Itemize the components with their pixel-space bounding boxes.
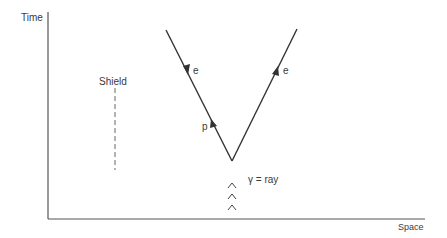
positron-label: p (202, 122, 208, 132)
arrow-up-icon (210, 119, 217, 128)
electron-label-right: e (283, 66, 289, 76)
caret-icon (228, 194, 236, 199)
space-axis-label: Space (398, 223, 424, 232)
spacetime-diagram: Time Space Shield e e p γ = ray (0, 0, 447, 238)
time-axis-label: Time (21, 13, 43, 23)
caret-icon (228, 183, 236, 188)
diagram-canvas (0, 0, 447, 238)
caret-icon (228, 205, 236, 210)
electron-worldline-right (232, 29, 297, 161)
shield-label: Shield (99, 77, 127, 87)
gamma-ray-label: γ = ray (248, 175, 278, 185)
electron-label-left: e (193, 66, 199, 76)
arrow-up-icon (272, 66, 279, 76)
electron-worldline-left (166, 30, 232, 161)
